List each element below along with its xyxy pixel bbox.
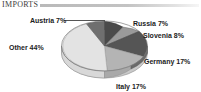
chart-area: Austria 7% Russia 7% Slovenia 8% Germany…	[0, 11, 201, 92]
page-title: IMPORTS	[2, 0, 38, 10]
austria-leader-line-vertical	[104, 20, 105, 30]
austria-leader-line-horizontal	[64, 20, 105, 21]
pie-label-austria: Austria 7%	[30, 17, 66, 25]
header-divider	[40, 4, 199, 7]
pie-label-other: Other 44%	[9, 44, 44, 52]
pie-label-russia: Russia 7%	[133, 20, 168, 28]
pie-label-slovenia: Slovenia 8%	[143, 32, 184, 40]
pie-label-italy: Italy 17%	[116, 83, 146, 91]
pie-label-germany: Germany 17%	[144, 58, 190, 66]
imports-pie-chart-figure: IMPORTS	[0, 0, 201, 92]
figure-header: IMPORTS	[0, 0, 201, 11]
